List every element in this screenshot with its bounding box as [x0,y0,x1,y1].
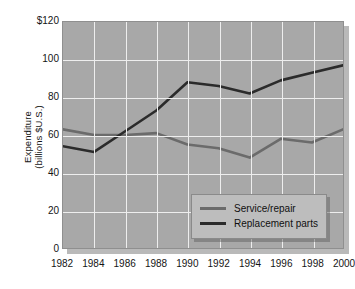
x-axis-tick-labels: 1982198419861988199019921994199619982000 [0,258,353,274]
y-tick-label: 40 [20,168,59,178]
x-tick-label: 1994 [239,258,261,270]
y-tick-label: 20 [20,206,59,216]
y-tick-label: 80 [20,92,59,102]
gridline-horizontal [63,136,343,137]
x-tick-label: 1982 [51,258,73,270]
gridline-horizontal [63,60,343,61]
legend-label: Replacement parts [234,218,318,229]
y-tick-label: 60 [20,130,59,140]
x-tick-label: 1986 [114,258,136,270]
y-tick-label: $120 [20,16,59,26]
gridline-vertical [126,22,127,248]
gridline-vertical [188,22,189,248]
y-tick-label: 0 [20,244,59,254]
x-tick-label: 1998 [302,258,324,270]
legend-line-swatch-icon [200,222,226,225]
y-tick-label: 100 [20,54,59,64]
gridline-horizontal [63,174,343,175]
x-tick-label: 1984 [82,258,104,270]
gridline-vertical [94,22,95,248]
series-line [63,65,343,152]
chart-legend: Service/repairReplacement parts [191,194,327,239]
x-tick-label: 1992 [208,258,230,270]
legend-item: Service/repair [200,201,318,216]
y-axis-tick-labels: 020406080100$120 [20,0,59,289]
x-tick-label: 2000 [333,258,355,270]
x-tick-label: 1988 [145,258,167,270]
gridline-horizontal [63,98,343,99]
x-tick-label: 1996 [270,258,292,270]
legend-item: Replacement parts [200,216,318,231]
legend-line-swatch-icon [200,207,226,210]
x-tick-label: 1990 [176,258,198,270]
legend-label: Service/repair [234,203,296,214]
gridline-vertical [157,22,158,248]
